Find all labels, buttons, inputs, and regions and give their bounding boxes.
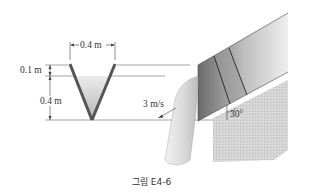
v-channel-diagram: 0.4 m 0.1 m 0.4 m 30° xyxy=(0,0,310,193)
velocity-label: 3 m/s xyxy=(143,99,164,109)
top-width-label: 0.4 m xyxy=(80,40,102,50)
freeboard-label: 0.1 m xyxy=(20,65,42,75)
figure-caption: 그림 E4-6 xyxy=(132,176,172,187)
flume-perspective: 30° xyxy=(165,13,288,165)
water-jet xyxy=(165,76,198,165)
angle-label: 30° xyxy=(230,109,244,119)
water-depth-label: 0.4 m xyxy=(40,96,62,106)
